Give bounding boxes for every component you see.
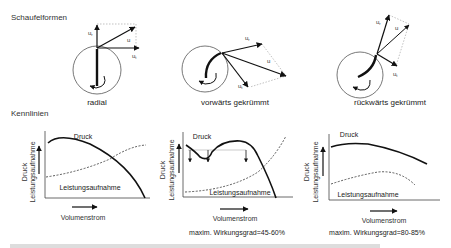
svg-text:Druck: Druck: [74, 133, 93, 140]
caption-forward-curved: vorwärts gekrümmt: [190, 98, 280, 107]
svg-text:Druck: Druck: [193, 133, 212, 140]
chart-radial: Druck Leistungsaufnahme Volumenstrom Dru…: [21, 131, 150, 221]
rotation-arrow-icon: [199, 73, 216, 84]
rotation-arrow-icon: [353, 80, 370, 90]
svg-text:ut: ut: [393, 71, 398, 78]
efficiency-label: maxim. Wirkungsgrad=45-60%: [189, 229, 285, 237]
svg-text:Volumenstrom: Volumenstrom: [61, 214, 106, 221]
svg-text:Volumenstrom: Volumenstrom: [213, 215, 258, 222]
radial-blade-diagram: ur u ut: [73, 24, 139, 94]
svg-text:Leistungsaufnahme: Leistungsaufnahme: [312, 141, 320, 202]
svg-text:Leistungsaufnahme: Leistungsaufnahme: [168, 139, 176, 200]
pressure-curve: [331, 143, 427, 164]
efficiency-label: maxim. Wirkungsgrad=80-85%: [329, 229, 425, 237]
caption-backward-curved: rückwärts gekrümmt: [345, 98, 435, 107]
blade-diagrams: ur u ut ur u ut ur u ut: [0, 0, 451, 112]
svg-text:Druck: Druck: [340, 131, 359, 138]
forward-curved-blade-diagram: ur u ut: [182, 35, 286, 92]
characteristic-charts: Druck Leistungsaufnahme Volumenstrom Dru…: [0, 112, 451, 248]
svg-text:u: u: [127, 37, 130, 43]
svg-text:u: u: [395, 25, 398, 31]
radial-velocity-arrow: [222, 44, 262, 53]
axes: [183, 132, 293, 197]
resultant-velocity-arrow: [222, 53, 286, 76]
svg-text:Druck: Druck: [159, 160, 166, 179]
blade: [206, 53, 221, 78]
svg-text:Volumenstrom: Volumenstrom: [362, 217, 407, 224]
impeller-circle: [182, 46, 228, 92]
svg-text:Druck: Druck: [303, 162, 310, 181]
svg-text:Leistungsaufnahme: Leistungsaufnahme: [337, 191, 398, 199]
caption-radial: radial: [72, 98, 122, 107]
svg-text:Leistungsaufnahme: Leistungsaufnahme: [209, 189, 270, 197]
chart-backward-curved: Druck Leistungsaufnahme Volumenstrom Dru…: [303, 131, 440, 237]
chart-forward-curved: Druck Leistungsaufnahme Volumenstrom Dru…: [159, 132, 293, 237]
power-curve: [46, 145, 146, 177]
svg-text:ur: ur: [245, 35, 250, 42]
blade: [358, 55, 376, 77]
svg-text:Leistungsaufnahme: Leistungsaufnahme: [29, 141, 37, 202]
svg-text:ur: ur: [376, 19, 381, 26]
svg-text:u: u: [267, 58, 270, 64]
cut-off-text-line: [10, 244, 380, 248]
svg-text:ut: ut: [132, 53, 137, 60]
svg-text:Druck: Druck: [21, 162, 28, 181]
svg-text:ut: ut: [238, 83, 243, 90]
svg-text:ur: ur: [88, 30, 93, 37]
backward-curved-blade-diagram: ur u ut: [337, 15, 409, 98]
svg-text:Leistungsaufnahme: Leistungsaufnahme: [59, 184, 120, 192]
power-curve: [331, 172, 415, 185]
